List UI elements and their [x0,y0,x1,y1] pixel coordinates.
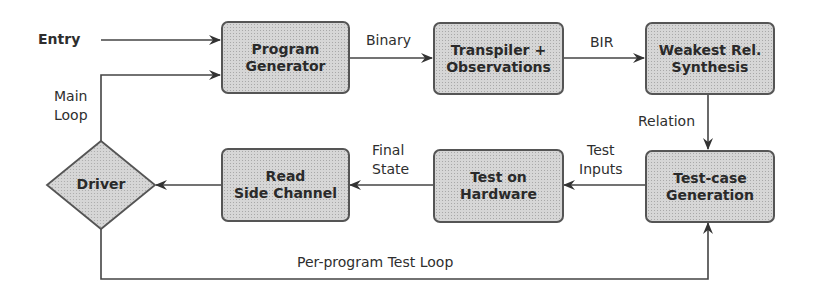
main-loop-label: Main Loop [54,87,88,125]
node-label: Generator [245,58,325,75]
node-label: Hardware [460,186,537,203]
node-label: Weakest Rel. [659,42,762,59]
edge-label-relation: Relation [638,112,695,131]
node-label: Test-case [666,170,754,187]
node-test-on-hardware[interactable]: Test on Hardware [433,149,564,223]
test-inputs-line2: Inputs [579,160,623,179]
node-driver[interactable]: Driver [46,176,156,192]
edge-label-binary: Binary [366,31,411,50]
node-label: Generation [666,187,754,204]
node-label: Read [234,168,337,185]
node-label: Side Channel [234,185,337,202]
edge-label-test-inputs: Test Inputs [579,141,623,179]
node-transpiler-observations[interactable]: Transpiler + Observations [433,22,564,95]
node-label: Program [245,41,325,58]
node-label: Observations [446,59,551,76]
final-state-line2: State [372,160,409,179]
node-label: Synthesis [659,59,762,76]
node-label: Transpiler + [446,42,551,59]
final-state-line1: Final [372,141,409,160]
edge-label-bir: BIR [590,33,613,52]
node-testcase-generation[interactable]: Test-case Generation [645,150,775,223]
main-loop-line2: Loop [54,106,88,125]
node-program-generator[interactable]: Program Generator [221,21,350,94]
node-weakest-rel-synthesis[interactable]: Weakest Rel. Synthesis [645,22,775,95]
node-label: Test on [460,169,537,186]
test-inputs-line1: Test [579,141,623,160]
node-read-side-channel[interactable]: Read Side Channel [221,148,350,222]
main-loop-line1: Main [54,87,88,106]
edge-label-per-program-loop: Per-program Test Loop [297,253,453,272]
edge-label-final-state: Final State [372,141,409,179]
entry-label: Entry [38,30,80,49]
